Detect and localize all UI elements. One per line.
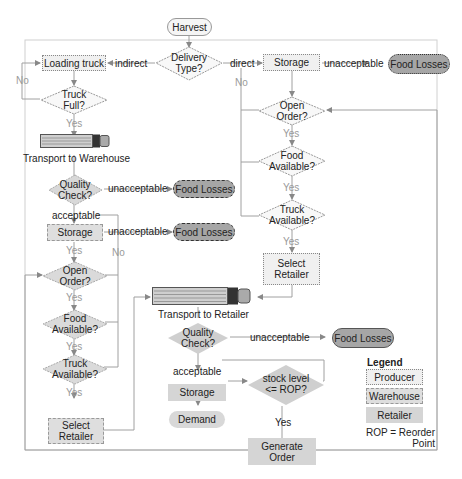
direct-food-available-label: Food Available?: [267, 147, 317, 175]
loading-truck-node: Loading truck: [42, 55, 106, 71]
direct-storage-node: Storage: [263, 54, 320, 71]
warehouse-truck-available-label: Truck Available?: [50, 355, 100, 383]
warehouse-open-order-label: Open Order?: [57, 262, 93, 290]
direct-unacceptable-label: unacceptable: [324, 58, 384, 69]
legend-title: Legend: [367, 357, 403, 368]
food-losses-node-2: Food Losses: [173, 223, 235, 241]
legend-retailer: Retailer: [366, 407, 423, 423]
yes-label: Yes: [66, 118, 82, 129]
yes-label-w2: Yes: [66, 292, 82, 303]
warehouse-select-retailer-node: Select Retailer: [48, 418, 104, 444]
retailer-quality-check-label: Quality Check?: [177, 324, 219, 352]
truck-icon: [40, 134, 110, 150]
legend-note: ROP = Reorder Point: [365, 427, 435, 449]
harvest-node: Harvest: [167, 18, 212, 36]
retailer-yes-label: Yes: [275, 417, 291, 428]
unacceptable-label-2: unacceptable: [108, 226, 168, 237]
no-label-w1: No: [112, 247, 125, 258]
truck-icon-2: [152, 287, 252, 307]
unacceptable-label-1: unacceptable: [108, 183, 168, 194]
direct-yes-label-3: Yes: [283, 236, 299, 247]
supply-chain-flowchart: Harvest Delivery Type? indirect direct L…: [0, 0, 462, 479]
stock-level-label: stock level <= ROP?: [258, 370, 314, 398]
yes-label-w4: Yes: [66, 387, 82, 398]
direct-no-label: No: [235, 77, 248, 88]
acceptable-label-1: acceptable: [52, 210, 100, 221]
transport-warehouse-label: Transport to Warehouse: [23, 153, 130, 164]
food-losses-node-1: Food Losses: [173, 180, 235, 198]
direct-yes-label-2: Yes: [283, 182, 299, 193]
warehouse-food-available-label: Food Available?: [50, 310, 100, 338]
retailer-food-losses-node: Food Losses: [332, 328, 394, 348]
direct-truck-available-label: Truck Available?: [267, 201, 317, 229]
retailer-storage-node: Storage: [168, 384, 226, 401]
legend-producer: Producer: [366, 369, 423, 385]
transport-retailer-label: Transport to Retailer: [158, 309, 249, 320]
direct-open-order-label: Open Order?: [274, 97, 310, 125]
delivery-type-label: Delivery Type?: [166, 50, 212, 76]
warehouse-storage-node: Storage: [47, 224, 103, 241]
indirect-label: indirect: [115, 58, 147, 69]
yes-label-w1: Yes: [66, 245, 82, 256]
warehouse-quality-check-label: Quality Check?: [55, 176, 95, 204]
direct-yes-label-1: Yes: [283, 128, 299, 139]
direct-food-losses-node: Food Losses: [388, 54, 450, 74]
no-label: No: [16, 75, 29, 86]
retailer-unacceptable-label: unacceptable: [250, 332, 310, 343]
retailer-acceptable-label: acceptable: [173, 366, 221, 377]
truck-full-label: Truck Full?: [55, 86, 93, 114]
generate-order-node: Generate Order: [248, 438, 316, 465]
demand-node: Demand: [169, 411, 225, 428]
legend-warehouse: Warehouse: [366, 388, 423, 404]
yes-label-w3: Yes: [66, 341, 82, 352]
direct-label: direct: [230, 58, 254, 69]
direct-select-retailer-node: Select Retailer: [263, 253, 320, 285]
